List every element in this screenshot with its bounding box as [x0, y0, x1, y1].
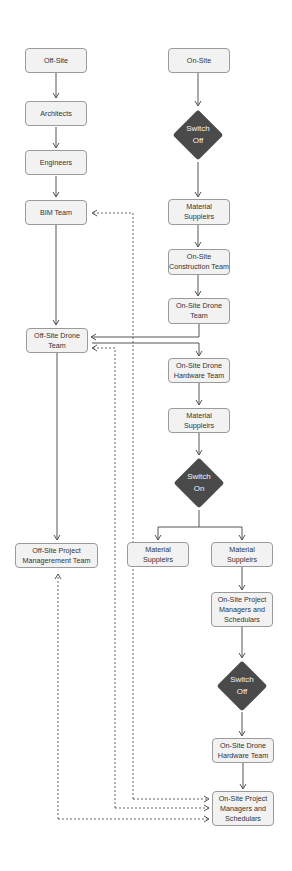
node-engineers[interactable]: Engineers — [25, 150, 87, 175]
decision-label: Switch Off — [186, 123, 210, 147]
node-on-site-construction-team[interactable]: On-Site Construction Team — [168, 249, 230, 275]
node-material-suppliers-right[interactable]: Material Suppleirs — [211, 542, 273, 567]
node-off-site[interactable]: Off-Site — [25, 48, 87, 73]
node-off-site-project-management-team[interactable]: Off-Site Project Managerement Team — [15, 543, 98, 568]
node-on-site[interactable]: On-Site — [168, 48, 230, 73]
decision-switch-off-2[interactable]: Switch Off — [216, 659, 268, 713]
node-on-site-pm-schedulers-2[interactable]: On-Site Project Managers and Schedulars — [212, 791, 274, 826]
decision-switch-on[interactable]: Switch On — [173, 456, 225, 510]
node-material-suppliers-2[interactable]: Material Suppleirs — [168, 408, 230, 433]
node-on-site-drone-hardware-team-1[interactable]: On-Site Drone Hardware Team — [168, 358, 230, 383]
node-bim-team[interactable]: BIM Team — [25, 200, 87, 225]
node-material-suppliers-left[interactable]: Material Suppleirs — [127, 542, 189, 567]
node-architects[interactable]: Architects — [25, 101, 87, 126]
node-off-site-drone-team[interactable]: Off-Site Drone Team — [26, 328, 88, 353]
node-on-site-drone-hardware-team-2[interactable]: On-Site Drone Hardware Team — [212, 738, 274, 763]
decision-switch-off-1[interactable]: Switch Off — [172, 108, 224, 162]
node-material-suppliers-1[interactable]: Material Suppleirs — [168, 199, 230, 225]
node-on-site-drone-team[interactable]: On-Site Drone Team — [168, 298, 230, 324]
node-on-site-pm-schedulers-1[interactable]: On-Site Project Managers and Schedulars — [211, 592, 273, 627]
decision-label: Switch Off — [230, 674, 254, 698]
decision-label: Switch On — [187, 471, 211, 495]
